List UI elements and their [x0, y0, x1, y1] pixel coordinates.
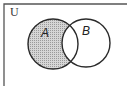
venn-diagram: U A B: [0, 0, 127, 86]
set-a-label: A: [40, 26, 49, 40]
universe-label: U: [10, 5, 19, 19]
shaded-region-a-minus-b: [0, 0, 127, 86]
set-b-label: B: [82, 24, 90, 38]
